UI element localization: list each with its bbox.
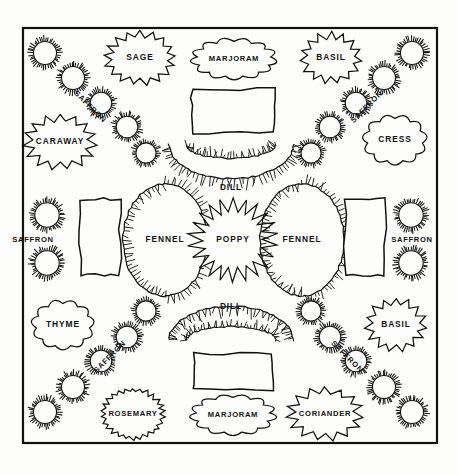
bed-rosemary[interactable] xyxy=(101,389,165,441)
bed-marjoram-top[interactable] xyxy=(190,38,276,79)
saffron-ring xyxy=(315,111,346,143)
saffron-ring xyxy=(313,321,347,353)
saffron-ring xyxy=(56,369,91,404)
saffron-ring xyxy=(368,60,401,95)
saffron-ring xyxy=(28,245,65,282)
bed-dill-bottom[interactable] xyxy=(169,306,294,342)
bed-coriander[interactable] xyxy=(286,387,363,441)
saffron-ring xyxy=(84,345,115,376)
saffron-ring xyxy=(340,346,371,378)
empty-bed-rect-left[interactable] xyxy=(79,198,122,276)
saffron-ring xyxy=(131,139,161,168)
saffron-label: SAFFRON xyxy=(329,339,365,375)
bed-sage[interactable] xyxy=(104,30,175,85)
bed-cress[interactable] xyxy=(363,115,427,165)
bed-fennel-right[interactable] xyxy=(259,174,353,303)
saffron-ring xyxy=(396,395,430,429)
bed-label-dill-top: DILL xyxy=(220,182,242,192)
empty-bed-rect-right[interactable] xyxy=(344,198,387,277)
bed-label-fennel-left: FENNEL xyxy=(146,234,185,244)
saffron-label: SAFFRON xyxy=(391,235,433,244)
bed-dill-top[interactable] xyxy=(162,140,303,191)
saffron-ring xyxy=(56,61,91,96)
saffron-ring xyxy=(27,35,62,71)
herb-garden-plan: SAGEMARJORAMBASILCARAWAYCRESSDILLFENNELP… xyxy=(0,0,457,475)
saffron-ring xyxy=(366,369,402,404)
saffron-ring xyxy=(111,110,143,142)
saffron-ring xyxy=(130,296,160,326)
empty-bed-rect-top[interactable] xyxy=(191,88,276,134)
saffron-ring xyxy=(340,86,373,119)
saffron-label: SAFFRON xyxy=(12,235,54,244)
saffron-ring xyxy=(394,35,430,70)
saffron-ring xyxy=(28,394,63,430)
saffron-ring xyxy=(296,297,326,325)
bed-basil-top[interactable] xyxy=(300,31,361,83)
garden-plan-canvas: SAGEMARJORAMBASILCARAWAYCRESSDILLFENNELP… xyxy=(0,0,457,475)
saffron-ring xyxy=(29,196,66,233)
bed-thyme[interactable] xyxy=(31,300,94,349)
saffron-ring xyxy=(85,86,117,118)
empty-bed-rect-bottom[interactable] xyxy=(193,352,273,390)
bed-label-fennel-right: FENNEL xyxy=(283,234,322,244)
bed-marjoram-bot[interactable] xyxy=(190,395,277,436)
saffron-ring xyxy=(392,245,428,282)
saffron-ring xyxy=(111,321,144,354)
saffron-ring xyxy=(393,198,429,234)
bed-caraway[interactable] xyxy=(23,115,97,170)
bed-basil-bottom[interactable] xyxy=(365,299,427,352)
saffron-ring xyxy=(296,139,327,169)
